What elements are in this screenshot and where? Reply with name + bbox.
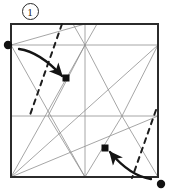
- left-edge-reference-dot: [4, 41, 12, 49]
- lower-target-dot: [102, 145, 109, 152]
- diagonal-leftmid-to-topcenter: [11, 24, 85, 45]
- target-dots-group: [63, 75, 109, 152]
- bottom-right-reference-dot: [157, 180, 165, 188]
- step-number-badge: 1: [19, 2, 41, 22]
- reference-dots-group: [4, 41, 165, 188]
- upper-target-dot: [63, 75, 70, 82]
- diagonal-bl-to-topright: [11, 45, 158, 177]
- crease-lines-group: [11, 24, 158, 177]
- step-number-label: 1: [27, 7, 33, 18]
- vee-right-top: [85, 24, 97, 45]
- vee-left-top: [73, 24, 85, 45]
- upper-fold-arrow: [19, 49, 62, 76]
- paper-square-outline: [11, 24, 158, 177]
- diagonal-rightmid-to-topright: [122, 45, 158, 116]
- lower-vee-left-2: [48, 116, 85, 177]
- origami-diagram-canvas: [0, 0, 171, 192]
- lower-fold-arrow: [110, 152, 151, 179]
- crease-pattern-svg: [0, 0, 171, 192]
- fold-lines-group: [30, 24, 156, 178]
